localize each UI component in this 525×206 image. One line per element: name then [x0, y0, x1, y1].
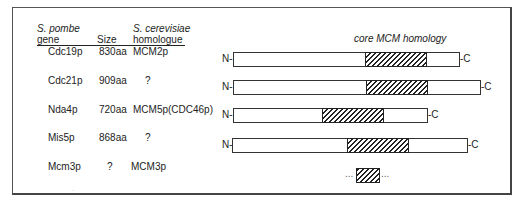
row-size: ? — [107, 162, 113, 172]
stray-mark: . — [72, 184, 74, 194]
protein-bar — [233, 80, 481, 95]
c-terminus-label: -C — [468, 140, 479, 150]
core-homology-region — [347, 138, 409, 153]
row-size: 909aa — [99, 76, 127, 86]
row-homologue: MCM5p(CDC46p) — [133, 105, 213, 115]
protein-bar — [233, 52, 460, 67]
n-terminus-label: N- — [222, 140, 233, 150]
c-terminus-label: -C — [428, 110, 439, 120]
n-terminus-label: N- — [222, 82, 233, 92]
core-homology-region — [365, 52, 427, 67]
core-homology-region — [322, 108, 384, 123]
row-gene: Mis5p — [48, 133, 75, 143]
c-terminus-label: -C — [460, 54, 471, 64]
row-gene: Cdc19p — [48, 47, 82, 57]
c-terminus-label: -C — [481, 82, 492, 92]
row-size: 868aa — [99, 133, 127, 143]
row-homologue: ? — [145, 76, 151, 86]
row-size: 720aa — [99, 105, 127, 115]
row-gene: Cdc21p — [48, 76, 82, 86]
diagram-title: core MCM homology — [354, 34, 446, 44]
row-size: 830aa — [99, 47, 127, 57]
protein-bar — [232, 138, 468, 153]
row-gene: Mcm3p — [48, 162, 81, 172]
header-homologue-line1: S. cerevisiae — [133, 24, 190, 34]
header-gene-line2: gene — [37, 35, 59, 45]
n-terminus-label: N- — [222, 54, 233, 64]
row-homologue: MCM3p — [131, 162, 166, 172]
row-gene: Nda4p — [48, 105, 77, 115]
row-homologue: ? — [145, 133, 151, 143]
core-homology-region — [356, 168, 380, 183]
ellipsis-left: ... — [345, 168, 353, 179]
n-terminus-label: N- — [222, 110, 233, 120]
header-gene-line1: S. pombe — [37, 24, 80, 34]
row-homologue: MCM2p — [133, 47, 168, 57]
core-homology-region — [366, 80, 428, 95]
ellipsis-right: ... — [381, 168, 389, 179]
header-size: Size — [97, 35, 116, 45]
header-homologue-line2: homologue — [133, 35, 182, 45]
protein-bar — [233, 108, 428, 123]
